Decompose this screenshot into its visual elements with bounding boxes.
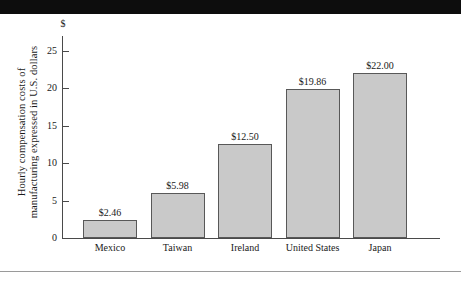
y-axis-tick	[62, 238, 69, 239]
page-bottom-rule	[0, 271, 461, 272]
bar	[151, 193, 205, 238]
bar	[83, 220, 137, 238]
y-axis-tick	[62, 201, 69, 202]
bar-value-label: $5.98	[141, 180, 215, 191]
bar	[286, 89, 340, 238]
y-axis-tick-label: 25	[37, 46, 57, 56]
x-axis-line	[62, 238, 440, 239]
bar-value-label: $19.86	[276, 76, 350, 87]
y-axis-tick-label: 0	[37, 233, 57, 243]
bar	[218, 144, 272, 238]
bar-value-label: $2.46	[73, 207, 147, 218]
y-axis-tick-label: 5	[37, 196, 57, 206]
y-axis-tick-label: 10	[37, 158, 57, 168]
page-top-black-band	[0, 0, 461, 14]
bar-value-label: $22.00	[343, 60, 417, 71]
y-axis-tick-label: 20	[37, 83, 57, 93]
x-axis-category-label: Japan	[331, 242, 429, 254]
y-axis-tick	[62, 51, 69, 52]
y-axis-tick-label: 15	[37, 121, 57, 131]
y-axis-tick	[62, 88, 69, 89]
y-axis-line	[62, 36, 63, 238]
bar-value-label: $12.50	[208, 131, 282, 142]
y-axis-tick	[62, 126, 69, 127]
y-axis-tick	[62, 163, 69, 164]
bar-chart-figure: Hourly compensation costs of manufacturi…	[0, 14, 461, 271]
plot-area: $ 0510152025 $2.46Mexico$5.98Taiwan$12.5…	[0, 14, 461, 271]
y-axis-currency-symbol: $	[56, 18, 70, 29]
bar	[353, 73, 407, 238]
